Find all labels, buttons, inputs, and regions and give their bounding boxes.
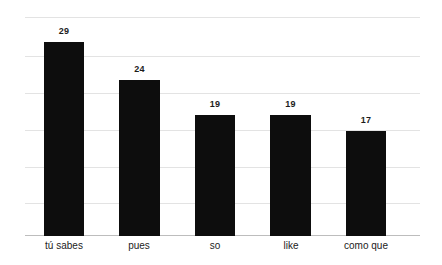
x-axis-label-tu-sabes: tú sabes <box>29 239 99 253</box>
table-row[interactable] <box>195 115 235 236</box>
bar-group: 17 <box>346 17 386 236</box>
x-axis-label-pues: pues <box>104 239 174 253</box>
table-row[interactable] <box>119 80 160 236</box>
bar-group: 24 <box>119 17 160 236</box>
x-axis-labels: tú sabes pues so like como que <box>25 239 420 259</box>
bar-group: 19 <box>195 17 235 236</box>
x-axis-label-so: so <box>180 239 250 253</box>
bar-value-label: 24 <box>119 64 160 74</box>
bar-value-label: 19 <box>270 99 311 109</box>
table-row[interactable] <box>44 42 84 236</box>
bar-value-label: 29 <box>44 26 84 36</box>
table-row[interactable] <box>346 131 386 236</box>
bar-value-label: 17 <box>346 115 386 125</box>
bar-group: 19 <box>270 17 311 236</box>
bar-chart: 29 24 19 19 17 tú sabes pues so like com… <box>0 0 442 265</box>
x-axis-label-like: like <box>256 239 326 253</box>
table-row[interactable] <box>270 115 311 236</box>
bar-group: 29 <box>44 17 84 236</box>
bar-value-label: 19 <box>195 99 235 109</box>
x-axis-label-como-que: como que <box>331 239 401 253</box>
bars-layer: 29 24 19 19 17 <box>25 17 420 236</box>
